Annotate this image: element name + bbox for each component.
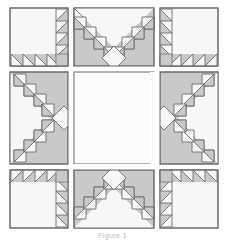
bottom-left-corner-block	[10, 170, 68, 228]
top-center-chevron-block	[74, 8, 154, 72]
top-right-corner-block	[160, 8, 218, 66]
top-left-corner-block	[10, 8, 68, 66]
middle-right-chevron-block	[150, 72, 218, 164]
center-plain-block	[74, 72, 154, 164]
middle-left-chevron-block	[10, 72, 78, 164]
bottom-right-corner-block	[160, 170, 218, 228]
quilt-block-diagram: Figure 1	[0, 0, 225, 241]
figure-caption: Figure 1	[0, 231, 225, 241]
bottom-center-chevron-block	[74, 164, 154, 228]
quilt-svg-canvas	[0, 0, 225, 241]
